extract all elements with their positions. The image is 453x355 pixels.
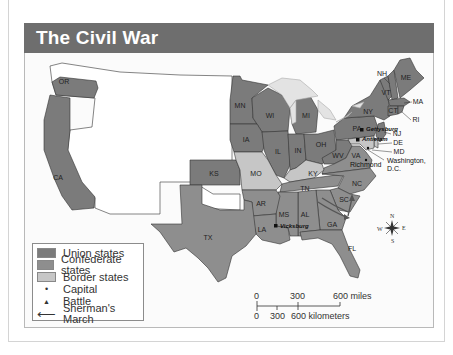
legend-label: Border states	[63, 272, 128, 283]
label-wv: WV	[332, 152, 344, 159]
legend-confederate: Confederate states	[37, 259, 143, 271]
compass-w: W	[377, 226, 383, 232]
label-va: VA	[352, 152, 361, 159]
label-ny: NY	[363, 108, 373, 115]
label-ms: MS	[279, 211, 290, 218]
legend-label: Sherman's March	[63, 303, 143, 325]
state-ma	[388, 98, 410, 106]
legend-label: Capital	[63, 284, 97, 295]
compass-e: E	[402, 225, 406, 231]
scale-mi-600: 600 miles	[333, 291, 372, 301]
place-antietam: Antietam	[361, 136, 388, 142]
capital-dot-icon: •	[37, 284, 56, 295]
label-la: LA	[258, 226, 267, 233]
scale-km-600: 600 kilometers	[291, 311, 350, 321]
label-ia: IA	[243, 136, 250, 143]
label-me: ME	[401, 74, 412, 81]
label-ga: GA	[327, 221, 337, 228]
battle-marker-antietam	[356, 138, 360, 142]
place-richmond: Richmond	[350, 161, 382, 168]
battle-icon: ▲	[37, 296, 56, 307]
label-wi: WI	[266, 112, 275, 119]
label-tx: TX	[204, 234, 213, 241]
arrow-left-icon: ⟵	[37, 309, 56, 320]
label-de: DE	[393, 139, 403, 146]
legend-border: Border states	[37, 271, 143, 283]
compass-s: S	[391, 238, 394, 244]
label-in: IN	[295, 147, 302, 154]
label-md: MD	[394, 148, 405, 155]
label-ri: RI	[413, 116, 420, 123]
label-tn: TN	[300, 185, 309, 192]
label-fl: FL	[348, 245, 356, 252]
union-swatch	[37, 248, 56, 258]
map-title: The Civil War	[36, 27, 158, 49]
label-ca: CA	[53, 174, 63, 181]
scale-km-300: 300	[270, 311, 285, 321]
state-fl	[300, 230, 360, 278]
label-il: IL	[275, 148, 281, 155]
title-bar: The Civil War	[24, 23, 434, 53]
battle-marker-vicksburg	[274, 224, 278, 228]
label-or: OR	[59, 78, 70, 85]
compass-n: N	[390, 213, 395, 219]
label-vt: VT	[382, 89, 392, 96]
place-gettysburg: Gettysburg	[366, 126, 398, 132]
scale-mi-300: 300	[290, 291, 305, 301]
label-ct: CT	[388, 107, 398, 114]
capital-marker-washington	[367, 147, 369, 149]
place-washington-line1: Washington,	[387, 157, 426, 165]
label-ky: KY	[308, 170, 318, 177]
label-mn: MN	[235, 102, 246, 109]
map-legend: Union states Confederate states Border s…	[32, 243, 144, 321]
scale-mi-0: 0	[254, 291, 259, 301]
label-ar: AR	[256, 200, 266, 207]
label-mo: MO	[250, 170, 262, 177]
border-swatch	[37, 272, 56, 282]
compass-rose: N S E W	[377, 213, 406, 244]
legend-capital: • Capital	[37, 284, 143, 296]
label-oh: OH	[316, 141, 327, 148]
label-sc: SC	[339, 196, 349, 203]
label-al: AL	[301, 211, 310, 218]
scale-bar: 0 300 600 miles 0 300 600 kilometers	[254, 296, 374, 326]
place-washington-line2: D.C.	[387, 165, 401, 172]
label-mi: MI	[302, 112, 310, 119]
scale-km-0: 0	[254, 311, 259, 321]
battle-marker-gettysburg	[360, 128, 364, 132]
label-nc: NC	[352, 180, 362, 187]
place-vicksburg: Vicksburg	[280, 223, 309, 229]
label-ks: KS	[209, 170, 219, 177]
label-nh: NH	[377, 70, 387, 77]
confederate-swatch	[37, 260, 54, 270]
legend-sherman: ⟵ Sherman's March	[37, 308, 143, 320]
label-ma: MA	[413, 98, 424, 105]
